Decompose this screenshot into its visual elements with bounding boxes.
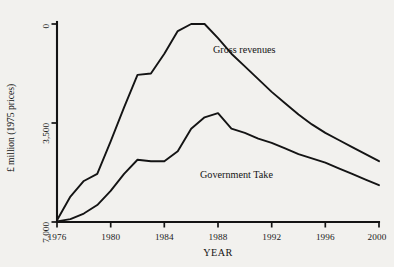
x-tick-label-1984: 1984 [155,232,174,242]
x-tick-label-1980: 1980 [101,232,120,242]
y-tick-label-3500: 3,500 [41,123,51,144]
series-annotation-gross-revenues: Gross revenues [213,44,276,55]
x-axis-title: YEAR [203,247,233,258]
chart-figure: 0 3,500 7,000 1976 1980 1984 1988 1992 1… [0,0,394,267]
line-chart-plot: 0 3,500 7,000 1976 1980 1984 1988 1992 1… [0,0,394,267]
x-axis-group [57,222,379,228]
y-axis-group [52,22,58,222]
series-line-government-take [57,113,379,221]
x-tick-label-1996: 1996 [316,232,335,242]
x-tick-label-1992: 1992 [262,232,281,242]
x-tick-label-1976: 1976 [48,232,67,242]
y-axis-title: £ million (1975 prices) [5,84,17,172]
x-tick-label-2000: 2000 [368,232,387,242]
y-tick-label-7000: 0 [41,24,51,29]
x-tick-label-1988: 1988 [209,232,228,242]
series-annotation-government-take: Government Take [200,169,273,180]
